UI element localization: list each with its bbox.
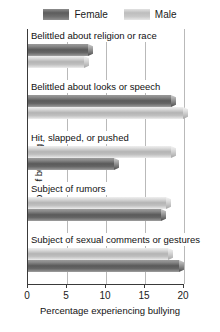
bar-cap — [168, 248, 173, 260]
bar-group-subject-of-rumors: Subject of rumors — [28, 182, 184, 233]
bar-female-sexual-comments-or-gestures — [28, 260, 184, 272]
x-tick-0 — [27, 284, 28, 288]
bar-group-religion-or-race: Belittled about religion or race — [28, 29, 184, 80]
bar-cap — [161, 209, 166, 221]
chart-legend: Female Male — [0, 4, 220, 24]
bar-female-looks-or-speech — [28, 95, 176, 107]
plot-area: Belittled about religion or race Belittl… — [27, 29, 184, 284]
bar-cap — [114, 158, 119, 170]
bar-cap — [84, 56, 89, 68]
group-label-religion-or-race: Belittled about religion or race — [31, 29, 159, 42]
group-label-looks-or-speech: Belittled about looks or speech — [31, 80, 162, 93]
bar-cap — [166, 197, 171, 209]
bar-female-religion-or-race — [28, 44, 93, 56]
bar-group-looks-or-speech: Belittled about looks or speech — [28, 80, 184, 131]
bar-body — [28, 44, 88, 56]
x-ticklabel-5: 5 — [54, 290, 78, 302]
bar-male-looks-or-speech — [28, 107, 188, 119]
x-tick-15 — [144, 284, 145, 288]
bar-group-sexual-comments-or-gestures: Subject of sexual comments or gestures — [28, 233, 184, 284]
bar-body — [28, 158, 114, 170]
x-ticklabel-0: 0 — [15, 290, 39, 302]
bar-male-hit-slapped-pushed — [28, 146, 176, 158]
x-tick-20 — [183, 284, 184, 288]
x-axis-title: Percentage experiencing bullying — [0, 305, 220, 317]
bar-cap — [183, 107, 188, 119]
bar-body — [28, 107, 183, 119]
x-tick-10 — [105, 284, 106, 288]
bar-male-religion-or-race — [28, 56, 89, 68]
legend-label-female: Female — [74, 9, 107, 20]
bullying-bar-chart: Female Male Belittled about religion or … — [0, 0, 220, 332]
bar-body — [28, 197, 166, 209]
bar-body — [28, 209, 161, 221]
group-label-sexual-comments-or-gestures: Subject of sexual comments or gestures — [31, 233, 202, 246]
bar-body — [28, 248, 168, 260]
bar-body — [28, 95, 171, 107]
male-swatch-icon — [124, 9, 150, 20]
group-label-hit-slapped-pushed: Hit, slapped, or pushed — [31, 131, 131, 144]
bar-body — [28, 260, 179, 272]
legend-entry-female: Female — [43, 9, 107, 20]
bar-cap — [171, 146, 176, 158]
x-ticklabel-15: 15 — [132, 290, 156, 302]
bar-male-sexual-comments-or-gestures — [28, 248, 173, 260]
bar-male-subject-of-rumors — [28, 197, 171, 209]
bar-cap — [88, 44, 93, 56]
x-tick-5 — [66, 284, 67, 288]
bar-female-hit-slapped-pushed — [28, 158, 119, 170]
legend-label-male: Male — [155, 9, 177, 20]
bar-body — [28, 146, 171, 158]
bar-group-hit-slapped-pushed: Hit, slapped, or pushed — [28, 131, 184, 182]
bar-female-subject-of-rumors — [28, 209, 166, 221]
female-swatch-icon — [43, 9, 69, 20]
x-ticklabel-20: 20 — [171, 290, 195, 302]
legend-entry-male: Male — [124, 9, 177, 20]
x-ticklabel-10: 10 — [93, 290, 117, 302]
bar-cap — [179, 260, 184, 272]
bar-cap — [171, 95, 176, 107]
group-label-subject-of-rumors: Subject of rumors — [31, 182, 107, 195]
bar-body — [28, 56, 84, 68]
